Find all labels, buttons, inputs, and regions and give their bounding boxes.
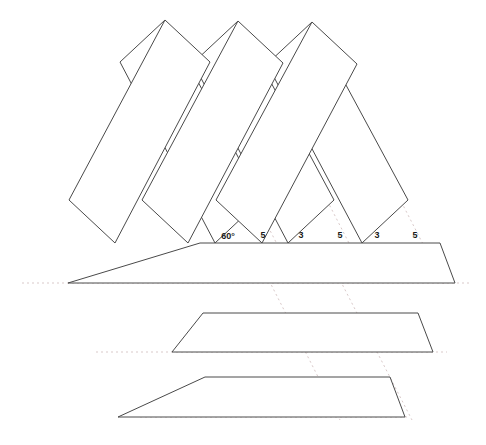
dimension-label: 5 [412,230,417,240]
diagram-canvas: 60°53535 [0,0,486,445]
dimension-label: 5 [337,230,342,240]
geometry-figure [0,0,486,445]
dimension-label: 5 [260,230,265,240]
dimension-label: 3 [374,230,379,240]
horizontal-strip-top [68,243,455,283]
horizontal-strip-middle [172,313,433,352]
horizontal-strips [68,243,455,417]
dimension-label: 60° [221,231,235,241]
dimension-label: 3 [298,230,303,240]
horizontal-strip-bottom [118,377,405,417]
